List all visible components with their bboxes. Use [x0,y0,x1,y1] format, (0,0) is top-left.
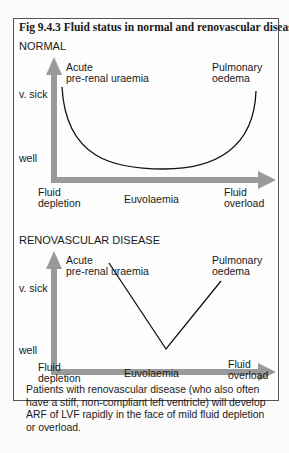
label-line: overload [224,198,264,209]
figure-box: Fig 9.4.3 Fluid status in normal and ren… [13,18,279,401]
normal-heading: NORMAL [19,41,66,52]
normal-top-left-label: Acute pre-renal uraemia [66,62,149,84]
normal-y-top-label: v. sick [19,89,47,100]
label-line: pre-renal uraemia [66,266,149,277]
renovascular-x-right-label: Fluid overload [228,359,268,381]
label-line: oedema [212,266,262,277]
renovascular-x-left-label: Fluid depletion [38,362,81,384]
renovascular-y-top-label: v. sick [19,283,47,294]
normal-x-center-label: Euvolaemia [124,194,179,205]
figure-caption: Patients with renovascular disease (who … [26,384,276,434]
normal-x-right-label: Fluid overload [224,187,264,209]
renovascular-y-bottom-label: well [19,345,37,356]
renovascular-heading: RENOVASCULAR DISEASE [19,235,160,246]
label-line: overload [228,370,268,381]
label-line: oedema [212,73,262,84]
normal-top-right-label: Pulmonary oedema [212,62,262,84]
label-line: depletion [38,373,81,384]
renovascular-x-center-label: Euvolaemia [124,368,179,379]
label-line: pre-renal uraemia [66,73,149,84]
normal-y-bottom-label: well [19,153,37,164]
renovascular-top-right-label: Pulmonary oedema [212,255,262,277]
renovascular-top-left-label: Acute pre-renal uraemia [66,255,149,277]
normal-x-left-label: Fluid depletion [38,187,81,209]
normal-u-curve [62,87,256,169]
label-line: depletion [38,198,81,209]
